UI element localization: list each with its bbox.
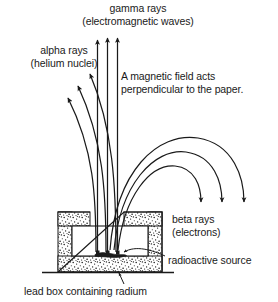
lead-box — [58, 212, 162, 272]
label-alpha-rays: alpha rays (helium nuclei) — [12, 44, 116, 69]
alpha-ray-3 — [90, 74, 116, 252]
lead-box-top-right-lip — [124, 212, 162, 226]
label-lead-box: lead box containing radium — [24, 285, 214, 298]
label-magnetic-field: A magnetic field acts perpendicular to t… — [121, 70, 273, 95]
label-gamma-rays: gamma rays (electromagnetic waves) — [63, 2, 213, 27]
lead-box-pointer-line — [119, 273, 124, 284]
radioactivity-diagram: gamma rays (electromagnetic waves) alpha… — [0, 0, 278, 302]
label-radioactive-source: radioactive source — [168, 254, 276, 267]
lead-box-top-left-lip — [58, 212, 90, 226]
label-beta-rays: beta rays (electrons) — [172, 213, 272, 238]
lead-box-cavity — [72, 226, 148, 256]
